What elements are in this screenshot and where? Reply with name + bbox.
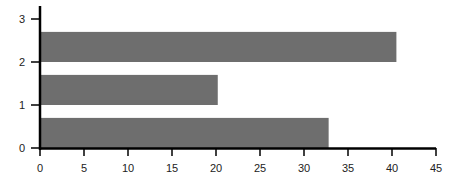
y-ticks-group: 0123: [19, 13, 40, 154]
y-tick-label: 3: [19, 13, 25, 25]
bars-group: [40, 32, 396, 148]
x-tick-label: 25: [254, 162, 266, 174]
bar-chart: 051015202530354045 0123: [0, 0, 460, 191]
x-ticks-group: 051015202530354045: [37, 148, 442, 174]
y-tick-label: 2: [19, 56, 25, 68]
x-tick-label: 0: [37, 162, 43, 174]
x-tick-label: 45: [430, 162, 442, 174]
x-tick-label: 20: [210, 162, 222, 174]
x-tick-label: 40: [386, 162, 398, 174]
y-tick-label: 1: [19, 99, 25, 111]
bar-1: [40, 75, 218, 105]
x-tick-label: 5: [81, 162, 87, 174]
bar-2: [40, 32, 396, 62]
y-tick-label: 0: [19, 142, 25, 154]
x-tick-label: 10: [122, 162, 134, 174]
bar-0: [40, 118, 329, 148]
x-tick-label: 15: [166, 162, 178, 174]
x-tick-label: 35: [342, 162, 354, 174]
x-tick-label: 30: [298, 162, 310, 174]
